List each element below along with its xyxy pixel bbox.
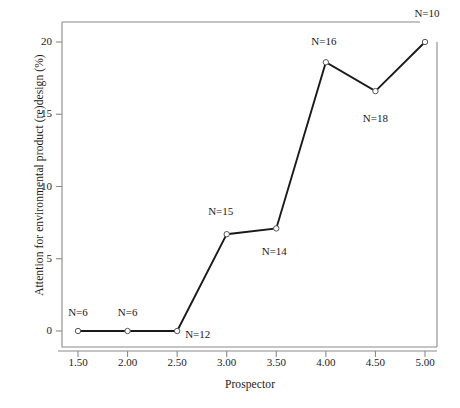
line-chart-plot	[0, 0, 460, 408]
x-tick-label: 2.50	[154, 356, 200, 368]
x-tick-label: 1.50	[55, 356, 101, 368]
x-axis-title: Prospector	[62, 378, 438, 390]
y-tick-label: 10	[26, 180, 52, 194]
y-tick-label: 5	[26, 252, 52, 266]
plot-frame	[62, 22, 437, 347]
x-tick-label: 3.50	[253, 356, 299, 368]
point-count-label: N=10	[414, 7, 439, 19]
data-series-line	[78, 42, 425, 331]
point-count-label: N=6	[68, 306, 88, 318]
x-tick-label: 4.50	[352, 356, 398, 368]
y-tick-label: 0	[26, 324, 52, 338]
point-count-label: N=14	[262, 245, 287, 257]
x-tick-label: 4.00	[303, 356, 349, 368]
chart-figure: Attention for environmental product (re)…	[0, 0, 460, 408]
y-axis-ticks	[56, 42, 62, 331]
point-count-label: N=18	[363, 112, 388, 124]
point-count-label: N=12	[185, 328, 210, 340]
point-count-label: N=15	[208, 205, 233, 217]
data-point-markers	[75, 39, 427, 333]
y-axis-title: Attention for environmental product (re)…	[30, 20, 48, 330]
y-tick-label: 20	[26, 35, 52, 49]
y-tick-label: 15	[26, 107, 52, 121]
point-count-label: N=6	[118, 306, 138, 318]
x-tick-label: 2.00	[105, 356, 151, 368]
x-tick-label: 3.00	[204, 356, 250, 368]
point-count-label: N=16	[311, 35, 336, 47]
x-tick-label: 5.00	[402, 356, 448, 368]
